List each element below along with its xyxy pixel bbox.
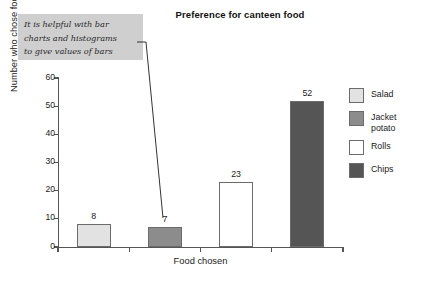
legend-item[interactable]: Salad: [349, 88, 427, 104]
legend-item[interactable]: Jacket potato: [349, 111, 427, 133]
legend-swatch: [349, 140, 364, 155]
annotation-text: It is helpful with bar charts and histog…: [24, 18, 137, 59]
bar-value-label: 23: [216, 169, 256, 179]
legend-swatch: [349, 111, 364, 126]
y-tick-label: 30: [45, 156, 55, 166]
y-tick-label: 60: [45, 72, 55, 82]
bar-value-label: 7: [145, 214, 185, 224]
legend-label: Salad: [371, 88, 394, 100]
y-tick-label: 20: [45, 184, 55, 194]
bar[interactable]: [77, 224, 111, 247]
x-tick: [342, 247, 343, 252]
x-tick: [129, 247, 130, 252]
y-tick-label: 50: [45, 100, 55, 110]
bar-value-label: 8: [74, 211, 114, 221]
y-tick-label: 40: [45, 128, 55, 138]
x-tick: [57, 247, 58, 252]
x-tick: [271, 247, 272, 252]
plot-area: 0102030405060 872352: [58, 78, 343, 247]
bar[interactable]: [219, 182, 253, 247]
x-tick: [200, 247, 201, 252]
y-tick-label: 10: [45, 212, 55, 222]
legend-item[interactable]: Chips: [349, 163, 427, 179]
annotation-callout: It is helpful with bar charts and histog…: [18, 14, 143, 60]
bar-value-label: 52: [287, 88, 327, 98]
legend-label: Jacket potato: [371, 111, 396, 133]
legend-label: Rolls: [371, 140, 391, 152]
y-tick-label: 0: [50, 241, 55, 251]
legend-swatch: [349, 163, 364, 178]
legend-swatch: [349, 88, 364, 103]
y-axis-title: Number who chose food: [9, 0, 19, 92]
legend-item[interactable]: Rolls: [349, 140, 427, 156]
bar[interactable]: [148, 227, 182, 247]
bar[interactable]: [290, 101, 324, 247]
x-axis-title: Food chosen: [58, 256, 343, 266]
chart-title: Preference for canteen food: [140, 9, 340, 20]
chart-legend: SaladJacket potatoRollsChips: [349, 88, 427, 186]
legend-label: Chips: [371, 163, 394, 175]
bar-chart-figure: Preference for canteen food It is helpfu…: [0, 0, 431, 283]
